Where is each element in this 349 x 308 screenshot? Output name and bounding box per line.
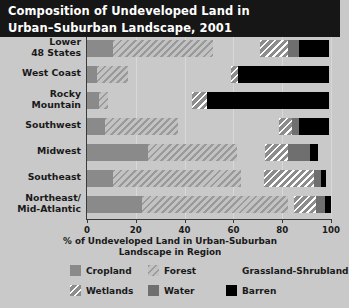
x-axis-tick-label: 20 bbox=[130, 225, 142, 235]
bar-segment-forest bbox=[105, 118, 178, 135]
bar-segment-barren bbox=[310, 144, 317, 161]
y-axis-label: Southwest bbox=[25, 120, 81, 131]
legend-item-forest[interactable]: Forest bbox=[148, 265, 196, 276]
x-axis-title-line-1: % of Undeveloped Land in Urban-Suburban bbox=[0, 236, 340, 247]
bar-segment-forest bbox=[113, 170, 241, 187]
legend-label: Wetlands bbox=[86, 286, 133, 296]
bar-segment-grassland bbox=[108, 92, 192, 109]
bar-segment-wetlands bbox=[294, 196, 316, 213]
y-axis-label-line: 48 States bbox=[31, 48, 81, 59]
y-axis-label: RockyMountain bbox=[32, 89, 81, 110]
legend-swatch-forest bbox=[148, 265, 159, 276]
grid-line bbox=[331, 37, 332, 219]
bar-segment-cropland bbox=[87, 66, 97, 83]
legend-item-water[interactable]: Water bbox=[148, 285, 195, 296]
y-axis-label-line: Midwest bbox=[37, 146, 81, 157]
bar-segment-wetlands bbox=[231, 66, 238, 83]
bar-segment-cropland bbox=[87, 196, 142, 213]
y-axis-label-line: Southwest bbox=[25, 120, 81, 131]
bar-rocky-mountain bbox=[87, 92, 331, 109]
legend-swatch-wetlands bbox=[70, 285, 81, 296]
y-axis-label-line: West Coast bbox=[22, 68, 81, 79]
bar-segment-wetlands bbox=[279, 118, 292, 135]
bar-southwest bbox=[87, 118, 331, 135]
chart-title-line-1: Composition of Undeveloped Land in bbox=[8, 3, 332, 20]
bar-northeast-mid-atlantic bbox=[87, 196, 331, 213]
y-axis-label: Northeast/Mid-Atlantic bbox=[17, 193, 81, 214]
bar-segment-cropland bbox=[87, 118, 105, 135]
bar-segment-grassland bbox=[179, 118, 279, 135]
bar-segment-barren bbox=[325, 196, 331, 213]
bar-segment-water bbox=[316, 196, 325, 213]
bar-segment-forest bbox=[142, 196, 288, 213]
bar-segment-forest bbox=[148, 144, 237, 161]
bar-midwest bbox=[87, 144, 331, 161]
bar-segment-wetlands bbox=[192, 92, 207, 109]
x-axis-tick bbox=[233, 219, 234, 223]
bar-segment-cropland bbox=[87, 144, 148, 161]
bar-segment-grassland bbox=[128, 66, 230, 83]
x-axis-tick bbox=[136, 219, 137, 223]
y-axis-label: West Coast bbox=[22, 68, 81, 79]
bar-segment-cropland bbox=[87, 170, 113, 187]
x-axis-tick bbox=[87, 219, 88, 223]
x-axis-title-line-2: Landscape in Region bbox=[0, 247, 340, 258]
legend-label: Water bbox=[164, 286, 195, 296]
bar-segment-barren bbox=[238, 66, 328, 83]
bar-southeast bbox=[87, 170, 331, 187]
bar-segment-forest bbox=[99, 92, 108, 109]
legend-label: Grassland-Shrubland bbox=[242, 266, 349, 276]
bar-segment-water bbox=[288, 40, 299, 57]
bar-segment-wetlands bbox=[264, 170, 314, 187]
bar-segment-forest bbox=[113, 40, 213, 57]
x-axis-tick bbox=[282, 219, 283, 223]
bar-segment-grassland bbox=[237, 144, 265, 161]
legend-label: Forest bbox=[164, 266, 196, 276]
y-axis-label-line: Lower bbox=[31, 37, 81, 48]
bar-segment-wetlands bbox=[260, 40, 288, 57]
bar-segment-barren bbox=[299, 118, 328, 135]
legend-item-grassland[interactable]: Grassland-Shrubland bbox=[226, 265, 349, 276]
x-axis-tick-label: 0 bbox=[84, 225, 90, 235]
x-axis-tick-label: 40 bbox=[179, 225, 191, 235]
y-axis-label-line: Southeast bbox=[28, 172, 81, 183]
y-axis-label-line: Mid-Atlantic bbox=[17, 204, 81, 215]
y-axis-label-line: Rocky bbox=[32, 89, 81, 100]
bar-segment-cropland bbox=[87, 40, 113, 57]
bar-segment-wetlands bbox=[265, 144, 288, 161]
bar-segment-forest bbox=[97, 66, 129, 83]
legend-item-barren[interactable]: Barren bbox=[226, 285, 276, 296]
x-axis-tick-label: 80 bbox=[276, 225, 288, 235]
legend-swatch-water bbox=[148, 285, 159, 296]
bar-segment-barren bbox=[207, 92, 329, 109]
y-axis-line bbox=[86, 37, 87, 220]
chart-title-bar: Composition of Undeveloped Land in Urban… bbox=[0, 0, 340, 37]
x-axis-tick bbox=[331, 219, 332, 223]
y-axis-label-line: Mountain bbox=[32, 100, 81, 111]
x-axis-tick-label: 60 bbox=[227, 225, 239, 235]
bar-segment-water bbox=[292, 118, 299, 135]
legend-label: Barren bbox=[242, 286, 276, 296]
bar-lower-48-states bbox=[87, 40, 331, 57]
y-axis-label: Lower48 States bbox=[31, 37, 81, 58]
bar-segment-grassland bbox=[213, 40, 261, 57]
legend-item-cropland[interactable]: Cropland bbox=[70, 265, 132, 276]
legend-label: Cropland bbox=[86, 266, 132, 276]
bar-segment-cropland bbox=[87, 92, 99, 109]
legend-swatch-cropland bbox=[70, 265, 81, 276]
plot-area bbox=[87, 37, 332, 219]
bar-segment-barren bbox=[321, 170, 326, 187]
y-axis-labels: Lower48 StatesWest CoastRockyMountainSou… bbox=[0, 37, 85, 219]
y-axis-label: Southeast bbox=[28, 172, 81, 183]
x-axis-tick-label: 100 bbox=[322, 225, 340, 235]
bar-segment-water bbox=[314, 170, 321, 187]
legend-swatch-barren bbox=[226, 285, 237, 296]
x-axis-tick bbox=[185, 219, 186, 223]
chart-title-line-2: Urban–Suburban Landscape, 2001 bbox=[8, 20, 332, 37]
plot-wrapper: Lower48 StatesWest CoastRockyMountainSou… bbox=[0, 37, 340, 308]
x-axis-line bbox=[86, 219, 332, 220]
legend-item-wetlands[interactable]: Wetlands bbox=[70, 285, 133, 296]
bar-west-coast bbox=[87, 66, 331, 83]
bar-segment-barren bbox=[299, 40, 328, 57]
